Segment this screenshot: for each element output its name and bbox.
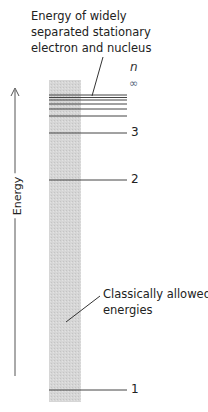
quantum-number-header: n: [130, 60, 138, 74]
annotation-line: electron and nucleus: [31, 40, 151, 56]
level-label-1: 1: [131, 382, 139, 396]
energy-axis-arrow-icon: [11, 88, 19, 376]
annotation-line: energies: [103, 302, 208, 318]
separated-energy-annotation: Energy of widely separated stationary el…: [31, 8, 151, 56]
infinity-icon: ∞: [129, 77, 138, 90]
annotation-line: Classically allowed: [103, 286, 208, 302]
annotation-line: Energy of widely: [31, 8, 151, 24]
annotation-line: separated stationary: [31, 24, 151, 40]
classically-allowed-annotation: Classically allowed energies: [103, 286, 208, 318]
level-label-2: 2: [131, 172, 139, 186]
energy-level-diagram: Energy of widely separated stationary el…: [0, 0, 208, 412]
energy-axis-label: Energy: [7, 176, 27, 216]
classically-allowed-band: [49, 80, 81, 402]
title-pointer-line: [92, 57, 103, 96]
energy-axis-text: Energy: [11, 174, 24, 219]
diagram-graphics: [0, 0, 208, 412]
level-label-3: 3: [131, 125, 139, 139]
